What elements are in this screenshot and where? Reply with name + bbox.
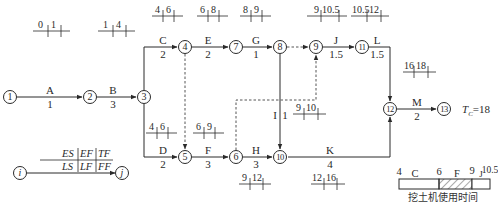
excavator-usage-bar <box>399 179 490 189</box>
node-9: 9 <box>309 40 323 54</box>
activity-f-es: 6 <box>196 122 201 132</box>
legend-tf: TF <box>98 149 110 159</box>
activity-a-ef: 1 <box>51 20 56 30</box>
legend-node-i: i <box>13 166 27 180</box>
activity-g-es: 8 <box>243 5 248 15</box>
activity-j-duration: 1.5 <box>329 49 343 60</box>
activity-h-ef: 12 <box>252 173 262 183</box>
activity-m-es: 16 <box>404 61 414 71</box>
activity-i-ef: 10 <box>306 103 316 113</box>
activity-f-name: F <box>205 145 211 156</box>
activity-m-name: M <box>412 97 422 108</box>
total-duration: TC=18 <box>462 103 490 118</box>
activity-c-ef: 6 <box>166 5 171 15</box>
activity-a-name: A <box>46 85 54 96</box>
node-10: 10 <box>273 150 287 164</box>
legend-ff: FF <box>98 162 111 172</box>
activity-m-ef: 18 <box>416 61 426 71</box>
activity-e-ef: 8 <box>211 5 216 15</box>
bar-segment-c-label: C <box>411 168 418 179</box>
node-3: 3 <box>137 90 151 104</box>
node-6: 6 <box>229 150 243 164</box>
activity-e-name: E <box>205 35 212 46</box>
activity-l-ef: 12 <box>369 5 379 15</box>
activity-f-duration: 3 <box>205 159 211 170</box>
activity-j-name: J <box>334 35 338 46</box>
activity-b-name: B <box>109 85 116 96</box>
node-8: 8 <box>273 40 287 54</box>
bar-tick-10-5: 10.5 <box>482 165 498 176</box>
activity-d-ef: 6 <box>160 122 165 132</box>
node-4: 4 <box>178 40 192 54</box>
activity-a-duration: 1 <box>47 99 53 110</box>
activity-m-duration: 2 <box>414 111 420 122</box>
activity-g-ef: 9 <box>254 5 259 15</box>
activity-c-es: 4 <box>155 5 160 15</box>
activity-h-duration: 3 <box>253 159 259 170</box>
activity-a-es: 0 <box>38 20 43 30</box>
bar-segment-f-label: F <box>454 168 460 179</box>
node-11: 11 <box>355 40 369 54</box>
activity-j-ef: 10.5 <box>322 5 340 15</box>
activity-d-duration: 2 <box>160 159 166 170</box>
activity-d-name: D <box>159 145 167 156</box>
node-7: 7 <box>229 40 243 54</box>
activity-k-duration: 4 <box>327 159 333 170</box>
activity-k-es: 12 <box>312 173 322 183</box>
total-duration-value: =18 <box>473 103 490 115</box>
legend-node-j: j <box>115 166 129 180</box>
arrow-k <box>288 117 390 157</box>
node-12: 12 <box>383 102 397 116</box>
activity-i-duration: 1 <box>282 110 288 121</box>
activity-j-es: 9 <box>314 5 319 15</box>
activity-l-es: 10.5 <box>352 5 370 15</box>
activity-c-name: C <box>159 35 166 46</box>
activity-i-name: I <box>273 110 277 121</box>
node-13: 13 <box>437 102 451 116</box>
activity-b-ef: 4 <box>116 20 121 30</box>
activity-h-name: H <box>252 145 260 156</box>
activity-l-name: L <box>374 35 381 46</box>
activity-c-duration: 2 <box>160 49 166 60</box>
activity-l-duration: 1.5 <box>370 49 384 60</box>
bar-tick-9: 9 <box>469 165 474 176</box>
activity-d-es: 4 <box>149 122 154 132</box>
bar-tick-4: 4 <box>396 166 401 177</box>
activity-e-duration: 2 <box>205 49 211 60</box>
legend-ls: LS <box>62 162 73 172</box>
dummy-6-9 <box>236 55 316 150</box>
excavator-bar-caption: 挖土机使用时间 <box>408 189 478 204</box>
activity-h-es: 9 <box>242 173 247 183</box>
activity-b-duration: 3 <box>110 99 116 110</box>
activity-i-es: 9 <box>296 103 301 113</box>
legend-ef: EF <box>80 149 93 159</box>
activity-g-duration: 1 <box>253 49 259 60</box>
activity-k-ef: 16 <box>326 173 336 183</box>
legend-lf: LF <box>80 162 92 172</box>
node-2: 2 <box>83 90 97 104</box>
activity-k-name: K <box>326 145 334 156</box>
activity-e-es: 6 <box>200 5 205 15</box>
node-5: 5 <box>178 150 192 164</box>
activity-b-es: 1 <box>103 20 108 30</box>
activity-g-name: G <box>252 35 260 46</box>
activity-f-ef: 9 <box>207 122 212 132</box>
node-1: 1 <box>3 90 17 104</box>
bar-tick-6: 6 <box>436 166 441 177</box>
legend-es: ES <box>62 149 74 159</box>
